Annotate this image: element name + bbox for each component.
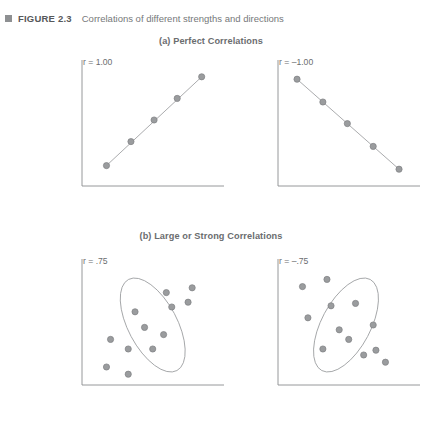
data-point xyxy=(128,139,134,145)
data-point xyxy=(185,299,191,305)
data-point xyxy=(169,304,175,310)
data-point xyxy=(344,121,350,127)
data-point xyxy=(151,117,157,123)
r-value-label: r = –.75 xyxy=(279,256,308,266)
data-point xyxy=(103,364,109,370)
chart-svg xyxy=(76,255,226,395)
correlation-ellipse xyxy=(300,268,392,382)
figure-number: FIGURE 2.3 xyxy=(18,13,72,24)
data-point xyxy=(336,327,342,333)
data-point xyxy=(132,309,138,315)
data-point xyxy=(125,346,131,352)
chart-svg xyxy=(272,255,422,395)
data-point xyxy=(396,166,402,172)
data-point xyxy=(370,143,376,149)
figure-title: Correlations of different strengths and … xyxy=(82,13,284,24)
data-point xyxy=(150,346,156,352)
data-point xyxy=(320,346,326,352)
chart-panel-strong-positive: r = .75 xyxy=(76,255,226,395)
data-point xyxy=(324,276,330,282)
r-value-label: r = –1.00 xyxy=(279,57,313,67)
data-point xyxy=(370,322,376,328)
data-point xyxy=(294,76,300,82)
data-point xyxy=(361,352,367,358)
caption-square-icon xyxy=(5,15,12,22)
section-heading-b: (b) Large or Strong Correlations xyxy=(0,231,422,241)
correlation-ellipse xyxy=(107,268,199,382)
data-point xyxy=(299,284,305,290)
data-point xyxy=(305,315,311,321)
data-point xyxy=(161,332,167,338)
data-point xyxy=(125,371,131,377)
figure-caption: FIGURE 2.3 Correlations of different str… xyxy=(0,8,422,28)
data-point xyxy=(163,290,169,296)
data-point xyxy=(382,359,388,365)
data-point xyxy=(199,74,205,80)
r-value-label: r = .75 xyxy=(83,256,108,266)
data-point xyxy=(346,336,352,342)
data-point xyxy=(189,285,195,291)
data-point xyxy=(141,324,147,330)
chart-panel-strong-negative: r = –.75 xyxy=(272,255,422,395)
chart-svg xyxy=(272,56,422,196)
section-heading-a: (a) Perfect Correlations xyxy=(0,36,422,46)
data-point xyxy=(107,336,113,342)
data-point xyxy=(373,347,379,353)
data-point xyxy=(328,303,334,309)
data-point xyxy=(352,300,358,306)
chart-axes xyxy=(278,259,420,385)
chart-panel-perfect-negative: r = –1.00 xyxy=(272,56,422,196)
chart-panel-perfect-positive: r = 1.00 xyxy=(76,56,226,196)
data-point xyxy=(174,95,180,101)
chart-svg xyxy=(76,56,226,196)
r-value-label: r = 1.00 xyxy=(83,57,112,67)
data-point xyxy=(320,99,326,105)
data-point xyxy=(103,163,109,169)
